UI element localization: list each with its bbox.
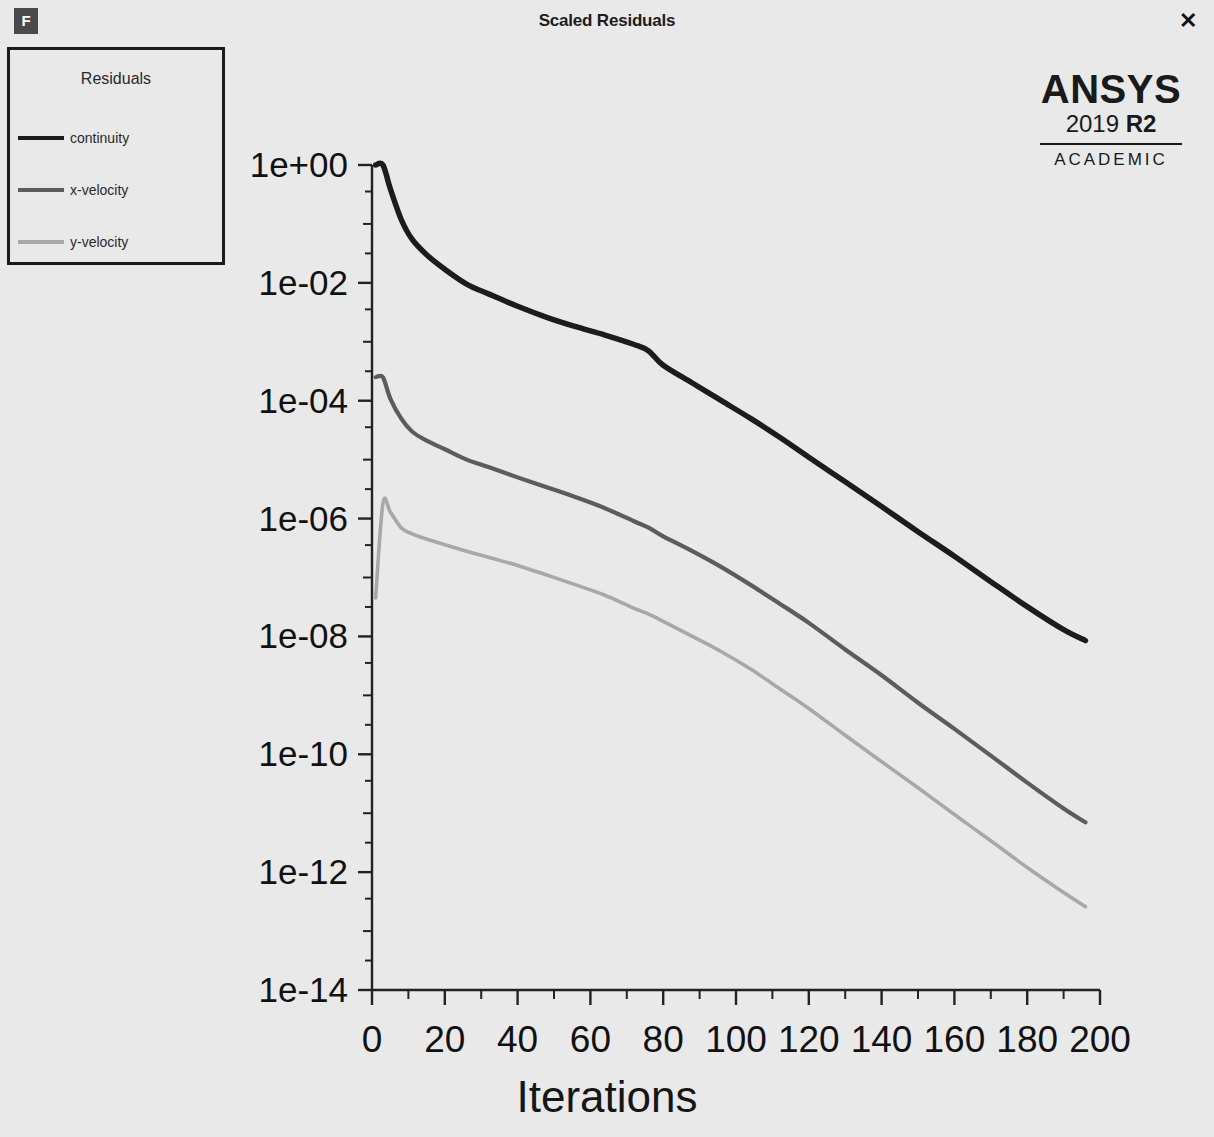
y-tick-label: 1e-12 [258,852,348,891]
x-tick-label: 100 [705,1019,767,1060]
x-axis-title: Iterations [0,1072,1214,1122]
y-tick-label: 1e-02 [258,263,348,302]
series-line-continuity [376,163,1086,640]
x-tick-label: 200 [1069,1019,1131,1060]
x-tick-label: 80 [643,1019,684,1060]
y-tick-label: 1e-14 [258,970,348,1009]
x-tick-label: 120 [778,1019,840,1060]
y-tick-label: 1e-10 [258,734,348,773]
x-tick-label: 20 [424,1019,465,1060]
residuals-plot: 1e+001e-021e-041e-061e-081e-101e-121e-14… [0,0,1214,1137]
x-tick-label: 140 [851,1019,913,1060]
series-line-y-velocity [376,498,1086,906]
x-tick-label: 180 [996,1019,1058,1060]
y-tick-label: 1e+00 [250,145,348,184]
x-tick-label: 40 [497,1019,538,1060]
y-tick-label: 1e-08 [258,616,348,655]
y-tick-label: 1e-04 [258,381,348,420]
x-tick-label: 160 [924,1019,986,1060]
y-tick-label: 1e-06 [258,499,348,538]
x-tick-label: 60 [570,1019,611,1060]
x-tick-label: 0 [362,1019,383,1060]
series-line-x-velocity [376,376,1086,823]
plot-canvas: 1e+001e-021e-041e-061e-081e-101e-121e-14… [0,0,1214,1137]
